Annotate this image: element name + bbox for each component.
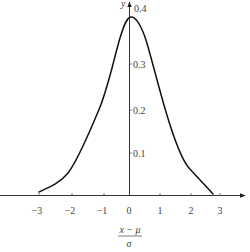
y-tick-label: 0.2 (133, 105, 146, 116)
x-axis-label: x − μ σ (118, 224, 142, 249)
y-tick-label: 0.4 (134, 3, 147, 14)
x-tick-label: 1 (158, 205, 163, 216)
x-axis-label-numerator: x − μ (118, 224, 140, 235)
x-tick-label: 0 (127, 205, 132, 216)
x-tick-label: −3 (32, 205, 43, 216)
x-tick-label: 3 (218, 205, 223, 216)
normal-curve (39, 17, 213, 194)
x-tick-label: −1 (97, 205, 108, 216)
x-tick-label: 2 (189, 205, 194, 216)
normal-distribution-chart: −3 −2 −1 0 1 2 3 0.1 0.2 0.3 0.4 y x − μ… (0, 0, 250, 252)
y-tick-label: 0.1 (133, 148, 146, 159)
x-axis-label-denominator: σ (127, 238, 133, 249)
y-axis-label: y (120, 0, 126, 9)
x-tick-labels: −3 −2 −1 0 1 2 3 (32, 205, 223, 216)
x-tick-label: −2 (65, 205, 76, 216)
y-tick-label: 0.3 (133, 59, 146, 70)
